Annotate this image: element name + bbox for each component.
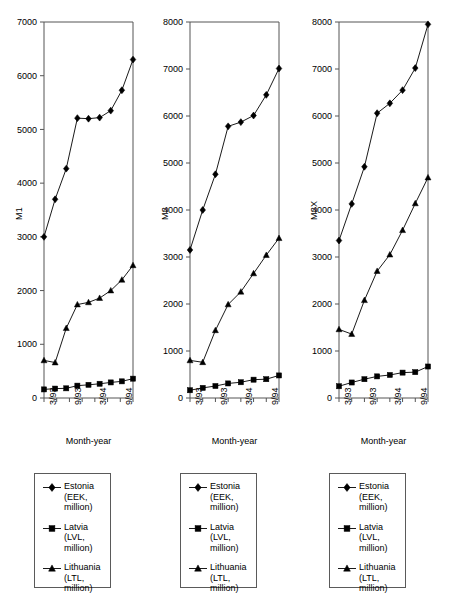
data-point-marker (362, 163, 368, 170)
data-point-marker (361, 297, 367, 303)
x-tick-label: 3/94 (98, 387, 108, 405)
y-tick-label: 3000 (312, 252, 332, 262)
y-tick-label: 8000 (312, 17, 332, 27)
y-tick-label: 0 (327, 393, 332, 403)
data-point-marker (425, 364, 430, 369)
chart-m2: 010002000300040005000600070008000M23/939… (146, 0, 295, 604)
series-line (44, 60, 133, 237)
series-line (339, 24, 428, 240)
y-tick-label: 6000 (312, 111, 332, 121)
data-point-marker (413, 65, 419, 72)
y-tick-label: 6000 (163, 111, 183, 121)
data-point-marker (75, 115, 81, 122)
y-axis-title: M2 (160, 207, 170, 220)
y-tick-label: 1000 (163, 346, 183, 356)
data-point-marker (187, 357, 193, 363)
data-point-marker (41, 233, 47, 240)
data-point-marker (97, 381, 102, 386)
data-point-marker (400, 370, 405, 375)
data-point-marker (86, 382, 91, 387)
legend: Estonia (EEK, million)Latvia (LVL, milli… (34, 473, 111, 588)
legend-label: Estonia (EEK, million) (210, 481, 240, 513)
x-tick-label: 3/94 (393, 387, 403, 405)
data-point-marker (336, 237, 342, 244)
legend-entry: Estonia (EEK, million) (42, 481, 104, 513)
y-tick-label: 5000 (163, 158, 183, 168)
legend-entry: Lithuania (LTL, million) (42, 562, 104, 594)
triangle-marker-icon (42, 563, 64, 574)
legend-entry: Latvia (LVL, million) (188, 522, 250, 554)
data-point-marker (64, 386, 69, 391)
y-tick-label: 2000 (17, 286, 37, 296)
data-point-marker (425, 174, 431, 180)
y-tick-label: 2000 (312, 299, 332, 309)
legend-entry: Estonia (EEK, million) (188, 481, 250, 513)
chart-m1: 01000200030004000500060007000M13/939/933… (0, 0, 149, 604)
chart-panel-m1: 01000200030004000500060007000M13/939/933… (0, 0, 149, 604)
y-axis-title: M2X (309, 201, 319, 220)
diamond-marker-icon (337, 482, 359, 493)
x-tick-label: 9/93 (219, 387, 229, 405)
legend-label: Lithuania (LTL, million) (359, 562, 396, 594)
x-tick-label: 3/93 (194, 387, 204, 405)
data-point-marker (336, 384, 341, 389)
legend-entry: Latvia (LVL, million) (337, 522, 399, 554)
x-tick-label: 3/94 (244, 387, 254, 405)
data-point-marker (86, 115, 92, 122)
legend-label: Estonia (EEK, million) (64, 481, 94, 513)
x-axis-title: Month-year (180, 436, 289, 446)
square-marker-icon (42, 523, 64, 534)
y-tick-label: 5000 (17, 125, 37, 135)
data-point-marker (413, 370, 418, 375)
y-tick-label: 2000 (163, 299, 183, 309)
figure-root: 01000200030004000500060007000M13/939/933… (0, 0, 449, 604)
data-point-marker (276, 65, 282, 72)
y-tick-label: 6000 (17, 71, 37, 81)
legend-label: Latvia (LVL, million) (64, 522, 93, 554)
data-point-marker (375, 374, 380, 379)
triangle-marker-icon (337, 563, 359, 574)
data-point-marker (238, 380, 243, 385)
legend-label: Estonia (EEK, million) (359, 481, 389, 513)
data-point-marker (52, 196, 58, 203)
y-tick-label: 1000 (17, 339, 37, 349)
data-point-marker (41, 387, 46, 392)
data-point-marker (226, 381, 231, 386)
legend-entry: Lithuania (LTL, million) (188, 562, 250, 594)
data-point-marker (130, 376, 135, 381)
data-point-marker (213, 383, 218, 388)
y-tick-label: 7000 (312, 64, 332, 74)
data-point-marker (264, 377, 269, 382)
legend-entry: Lithuania (LTL, million) (337, 562, 399, 594)
triangle-marker-icon (188, 563, 210, 574)
legend-entry: Estonia (EEK, million) (337, 481, 399, 513)
y-tick-label: 0 (178, 393, 183, 403)
data-point-marker (97, 114, 103, 121)
x-tick-label: 9/94 (419, 387, 429, 405)
data-point-marker (63, 325, 69, 331)
data-point-marker (187, 388, 192, 393)
legend-entry: Latvia (LVL, million) (42, 522, 104, 554)
data-point-marker (119, 87, 125, 94)
legend-label: Lithuania (LTL, million) (64, 562, 101, 594)
x-axis-title: Month-year (34, 436, 143, 446)
data-point-marker (63, 165, 69, 172)
data-point-marker (336, 326, 342, 332)
x-tick-label: 3/93 (48, 387, 58, 405)
data-point-marker (119, 379, 124, 384)
legend: Estonia (EEK, million)Latvia (LVL, milli… (180, 473, 257, 588)
data-point-marker (97, 295, 103, 301)
data-point-marker (200, 207, 206, 214)
chart-m2x: 010002000300040005000600070008000M2X3/93… (295, 0, 444, 604)
legend-label: Lithuania (LTL, million) (210, 562, 247, 594)
y-tick-label: 3000 (163, 252, 183, 262)
data-point-marker (349, 200, 355, 207)
y-tick-label: 7000 (17, 17, 37, 27)
data-point-marker (108, 380, 113, 385)
square-marker-icon (188, 523, 210, 534)
x-tick-label: 3/93 (343, 387, 353, 405)
chart-panel-m2: 010002000300040005000600070008000M23/939… (146, 0, 295, 604)
legend-label: Latvia (LVL, million) (359, 522, 388, 554)
x-tick-label: 9/93 (73, 387, 83, 405)
y-tick-label: 8000 (163, 17, 183, 27)
